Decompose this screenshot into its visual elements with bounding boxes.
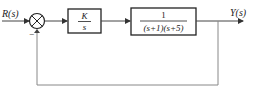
feedback-arrowhead: [34, 29, 40, 33]
plant-block: 1 (s+1)(s+5): [131, 8, 196, 35]
block-diagram: R(s) − K s 1 (s+1)(s+5) Y(s): [0, 0, 254, 103]
plant-numerator: 1: [161, 10, 166, 20]
controller-numerator: K: [80, 11, 88, 21]
plant-denominator: (s+1)(s+5): [143, 23, 183, 33]
summing-junction: [30, 14, 45, 29]
controller-denominator: s: [83, 22, 87, 32]
feedback-sign: −: [29, 29, 34, 39]
output-label: Y(s): [230, 7, 247, 19]
controller-block: K s: [68, 9, 101, 33]
input-label: R(s): [1, 8, 19, 20]
